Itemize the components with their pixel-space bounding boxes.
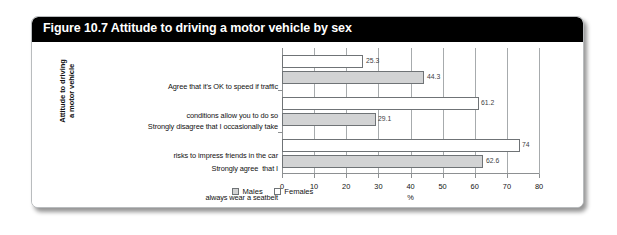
legend-swatch-females-icon [274, 188, 281, 195]
tick-mark-70 [507, 174, 508, 178]
x-tick-label-70: 70 [503, 182, 511, 191]
tick-mark-50 [443, 174, 444, 178]
y-tick-1 [278, 132, 282, 133]
bar-females-0 [282, 55, 363, 68]
bar-females-1 [282, 97, 479, 110]
y-axis-title: Attitude to driving a motor vehicle [58, 36, 76, 146]
x-tick-label-80: 80 [535, 182, 543, 191]
bar-females-2 [282, 139, 520, 152]
category-label-0-line1: Agree that it's OK to speed if traffic [118, 82, 278, 92]
legend-item-females: Females [274, 187, 314, 196]
category-label-1-line1: Strongly disagree that I occasionally ta… [118, 122, 278, 132]
bar-males-2 [282, 155, 483, 168]
legend-label-females: Females [284, 187, 313, 196]
y-tick-0 [278, 90, 282, 91]
chart-canvas: Attitude to driving a motor vehicle Agre… [32, 42, 583, 208]
bar-value-males-2: 62.6 [486, 157, 499, 164]
tick-mark-60 [475, 174, 476, 178]
tick-mark-80 [539, 174, 540, 178]
category-label-2-line1: Strongly agree that I [118, 164, 278, 174]
legend-swatch-males-icon [232, 188, 239, 195]
x-tick-label-60: 60 [471, 182, 479, 191]
gridline-80 [539, 48, 540, 174]
chart-legend: Males Females [232, 187, 313, 196]
y-axis-title-line1: Attitude to driving [58, 36, 67, 146]
tick-mark-30 [378, 174, 379, 178]
x-axis-title: % [282, 193, 539, 202]
x-tick-label-30: 30 [374, 182, 382, 191]
y-axis-title-line2: a motor vehicle [67, 36, 76, 146]
tick-mark-0 [282, 174, 283, 178]
x-tick-label-40: 40 [406, 182, 414, 191]
bar-value-males-0: 44.3 [427, 73, 440, 80]
legend-item-males: Males [232, 187, 263, 196]
bar-males-1 [282, 113, 376, 126]
gridline-70 [507, 48, 508, 174]
plot-area: 25.3 44.3 61.2 29.1 74 62.6 0 10 [282, 48, 539, 174]
legend-label-males: Males [243, 187, 263, 196]
x-tick-label-20: 20 [342, 182, 350, 191]
bar-value-males-1: 29.1 [378, 115, 391, 122]
bar-value-females-1: 61.2 [481, 99, 494, 106]
tick-mark-10 [314, 174, 315, 178]
figure-title-bar: Figure 10.7 Attitude to driving a motor … [32, 17, 583, 42]
tick-mark-20 [346, 174, 347, 178]
bar-males-0 [282, 71, 424, 84]
figure-card: Figure 10.7 Attitude to driving a motor … [31, 16, 584, 208]
tick-mark-40 [411, 174, 412, 178]
bar-value-females-2: 74 [522, 141, 530, 148]
page-title: Figure 10.7 Attitude to driving a motor … [43, 21, 352, 35]
category-label-2: Strongly agree that I always wear a seat… [118, 145, 278, 208]
bar-value-females-0: 25.3 [366, 57, 379, 64]
x-tick-label-50: 50 [438, 182, 446, 191]
